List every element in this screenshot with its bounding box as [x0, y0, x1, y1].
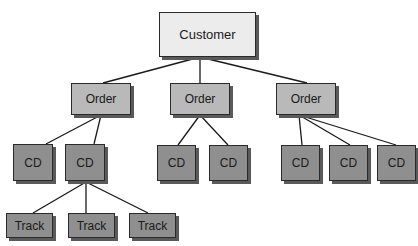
- edge-order2-cd3: [178, 115, 200, 145]
- node-track3: Track: [129, 213, 176, 238]
- node-customer: Customer: [159, 12, 256, 57]
- node-order3: Order: [276, 83, 336, 115]
- edge-cd2-track3: [86, 182, 148, 213]
- node-label: CD: [340, 156, 357, 170]
- node-label: Order: [185, 92, 216, 106]
- node-label: Track: [138, 219, 168, 233]
- edge-customer-order1: [103, 57, 200, 83]
- edge-order2-cd4: [200, 115, 228, 145]
- node-track1: Track: [6, 213, 53, 238]
- node-cd4: CD: [209, 145, 248, 181]
- node-label: CD: [292, 156, 309, 170]
- node-cd2: CD: [65, 144, 105, 181]
- node-cd7: CD: [377, 145, 416, 181]
- node-label: CD: [220, 156, 237, 170]
- node-label: CD: [388, 156, 405, 170]
- edge-order3-cd7: [299, 115, 396, 145]
- node-track2: Track: [68, 213, 115, 238]
- node-label: Order: [291, 92, 322, 106]
- node-label: Order: [86, 92, 117, 106]
- node-cd5: CD: [281, 145, 320, 181]
- edge-customer-order3: [200, 57, 307, 83]
- node-label: Track: [77, 219, 107, 233]
- node-label: Track: [15, 219, 45, 233]
- node-label: CD: [24, 156, 41, 170]
- node-cd1: CD: [13, 144, 53, 181]
- node-order2: Order: [170, 83, 230, 115]
- edge-order1-cd1: [46, 115, 101, 144]
- edge-order3-cd6: [299, 115, 350, 145]
- edge-cd2-track1: [33, 182, 86, 213]
- node-label: CD: [76, 156, 93, 170]
- edge-order3-cd5: [299, 115, 302, 145]
- node-label: CD: [168, 156, 185, 170]
- node-cd6: CD: [329, 145, 368, 181]
- node-label: Customer: [179, 27, 235, 42]
- hierarchy-diagram: CustomerOrderOrderOrderCDCDCDCDCDCDCDTra…: [0, 0, 418, 246]
- node-cd3: CD: [157, 145, 196, 181]
- edge-order1-cd2: [94, 115, 101, 144]
- node-order1: Order: [71, 83, 131, 115]
